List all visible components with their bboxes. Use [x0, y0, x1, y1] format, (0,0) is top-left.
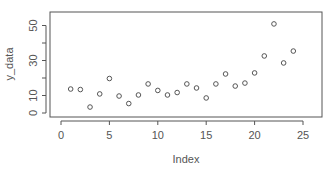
- data-points: [68, 22, 295, 110]
- y-axis-label: y_data: [3, 47, 15, 81]
- data-point: [88, 105, 93, 110]
- data-point: [136, 93, 141, 98]
- data-point: [117, 94, 122, 99]
- x-tick-label: 15: [200, 129, 212, 141]
- x-axis: 0510152025: [58, 121, 309, 141]
- data-point: [252, 71, 257, 76]
- data-point: [68, 87, 73, 92]
- data-point: [185, 82, 190, 87]
- data-point: [78, 87, 83, 92]
- data-point: [291, 49, 296, 54]
- data-point: [204, 96, 209, 101]
- x-tick-label: 20: [248, 129, 260, 141]
- data-point: [233, 84, 238, 89]
- y-axis: 0103050: [27, 19, 46, 116]
- plot-frame: [50, 12, 322, 117]
- data-point: [194, 86, 199, 91]
- x-tick-label: 10: [152, 129, 164, 141]
- data-point: [272, 22, 277, 27]
- y-tick-label: 10: [27, 89, 39, 101]
- data-point: [97, 92, 102, 97]
- x-tick-label: 5: [106, 129, 112, 141]
- data-point: [223, 72, 228, 77]
- data-point: [146, 82, 151, 87]
- scatter-chart: 0510152025 0103050 Index y_data: [0, 0, 327, 181]
- y-tick-label: 50: [27, 19, 39, 31]
- data-point: [243, 81, 248, 86]
- data-point: [175, 90, 180, 95]
- x-axis-label: Index: [173, 153, 200, 165]
- x-tick-label: 0: [58, 129, 64, 141]
- y-tick-label: 0: [27, 110, 39, 116]
- data-point: [156, 88, 161, 93]
- data-point: [214, 82, 219, 87]
- data-point: [281, 61, 286, 66]
- data-point: [165, 93, 170, 98]
- y-tick-label: 30: [27, 54, 39, 66]
- data-point: [262, 54, 267, 59]
- data-point: [126, 101, 131, 106]
- x-tick-label: 25: [297, 129, 309, 141]
- data-point: [107, 76, 112, 81]
